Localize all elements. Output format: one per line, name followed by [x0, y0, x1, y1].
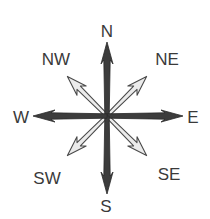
label-se: SE	[158, 166, 181, 183]
label-n: N	[101, 23, 113, 40]
label-w: W	[13, 109, 29, 126]
label-e: E	[187, 109, 198, 126]
arrow-n-icon	[101, 42, 113, 116]
label-nw: NW	[42, 51, 70, 68]
compass-rose: N NE E SE S SW W NW	[0, 0, 210, 219]
label-s: S	[100, 198, 111, 215]
arrow-s-icon	[101, 116, 113, 194]
label-sw: SW	[33, 170, 60, 187]
label-ne: NE	[155, 51, 179, 68]
arrow-w-icon	[33, 110, 107, 122]
arrow-e-icon	[107, 110, 183, 122]
